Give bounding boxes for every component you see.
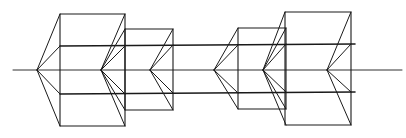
background [0, 0, 406, 138]
box-axis-diagram [0, 0, 406, 138]
